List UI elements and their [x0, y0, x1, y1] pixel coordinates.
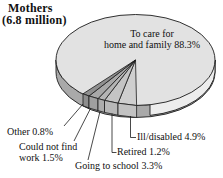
slice-label-care-line2: home and family 88.3%	[92, 40, 212, 51]
chart-subtitle: (6.8 million)	[2, 14, 67, 27]
slice-label-going-to-school: Going to school 3.3%	[75, 161, 162, 172]
pie-chart-figure: Mothers (6.8 million) To care for home a…	[0, 0, 223, 178]
slice-label-other: Other 0.8%	[7, 127, 53, 138]
slice-label-ill-disabled: Ill/disabled 4.9%	[137, 132, 205, 143]
slice-label-could-not-find-work-line2: work 1.5%	[19, 153, 63, 164]
slice-label-retired: Retired 1.2%	[117, 147, 170, 158]
